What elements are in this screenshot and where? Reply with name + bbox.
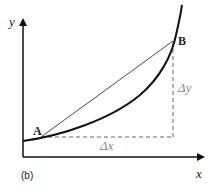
delta-y-label: Δy xyxy=(178,80,191,96)
delta-x-label: Δx xyxy=(100,138,113,154)
y-axis-label: y xyxy=(9,14,15,30)
point-b-label: B xyxy=(178,34,186,49)
secant-diagram: y x A B Δx Δy (b) xyxy=(0,0,217,191)
function-curve xyxy=(23,5,182,141)
figure-caption: (b) xyxy=(21,170,33,181)
point-a-label: A xyxy=(33,124,42,139)
x-axis-label: x xyxy=(196,166,202,182)
secant-line xyxy=(41,41,173,137)
